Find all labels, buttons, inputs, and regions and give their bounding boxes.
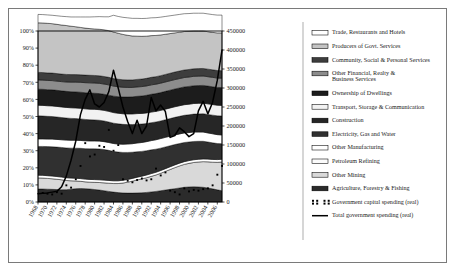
legend-label-5: Transport, Storage & Communication bbox=[332, 104, 424, 110]
capital-spending-marker-16 bbox=[117, 144, 119, 146]
capital-spending-marker-33 bbox=[198, 190, 200, 192]
ytick-label-left-2: 20% bbox=[23, 164, 34, 171]
ytick-label-right-8: 400000 bbox=[227, 46, 246, 53]
ytick-label-left-4: 40% bbox=[23, 130, 34, 137]
ytick-label-right-7: 350000 bbox=[227, 65, 246, 72]
legend-dot-marker-b-12-0 bbox=[312, 203, 314, 205]
capital-spending-marker-4 bbox=[61, 193, 63, 195]
capital-spending-marker-10 bbox=[89, 156, 91, 158]
ytick-label-right-1: 50000 bbox=[227, 179, 242, 186]
capital-spending-marker-11 bbox=[94, 154, 96, 156]
legend-swatch-2 bbox=[312, 58, 328, 63]
legend-label-1: Producers of Govt. Services bbox=[332, 43, 401, 49]
capital-spending-marker-13 bbox=[103, 146, 105, 148]
capital-spending-marker-18 bbox=[127, 180, 129, 182]
capital-spending-marker-22 bbox=[146, 179, 148, 181]
legend-label-4: Ownership of Dwellings bbox=[332, 90, 393, 96]
legend-swatch-0 bbox=[312, 30, 328, 35]
capital-spending-marker-20 bbox=[136, 179, 138, 181]
ytick-label-left-6: 60% bbox=[23, 96, 34, 103]
legend-label-6: Construction bbox=[332, 117, 363, 123]
legend-swatch-8 bbox=[312, 145, 328, 150]
xtick-label-19: 2006 bbox=[206, 204, 218, 218]
capital-spending-marker-28 bbox=[174, 191, 176, 193]
legend-swatch-5 bbox=[312, 105, 328, 110]
capital-spending-marker-32 bbox=[193, 189, 195, 191]
capital-spending-marker-35 bbox=[207, 187, 209, 189]
ytick-label-right-6: 300000 bbox=[227, 84, 246, 91]
ytick-label-left-1: 10% bbox=[23, 181, 34, 188]
legend-label-2: Community, Social & Personal Services bbox=[332, 57, 431, 63]
ytick-label-left-9: 90% bbox=[23, 44, 34, 51]
legend-label-0: Trade, Restaurants and Hotels bbox=[332, 29, 406, 35]
ytick-label-left-10: 100% bbox=[20, 27, 34, 34]
ytick-label-right-2: 100000 bbox=[227, 160, 246, 167]
chart-svg: 0%10%20%30%40%50%60%70%80%90%100%0500001… bbox=[0, 0, 457, 273]
legend-swatch-4 bbox=[312, 91, 328, 96]
ytick-label-left-5: 50% bbox=[23, 113, 34, 120]
capital-spending-marker-23 bbox=[150, 178, 152, 180]
legend-dot-marker-12-3 bbox=[328, 200, 330, 202]
legend-swatch-9 bbox=[312, 159, 328, 164]
capital-spending-marker-6 bbox=[70, 187, 72, 189]
capital-spending-marker-5 bbox=[65, 184, 67, 186]
capital-spending-marker-7 bbox=[75, 178, 77, 180]
legend-dot-marker-12-1 bbox=[316, 200, 318, 202]
capital-spending-marker-30 bbox=[183, 187, 185, 189]
capital-spending-marker-36 bbox=[212, 184, 214, 186]
legend-dot-marker-b-12-1 bbox=[316, 203, 318, 205]
ytick-label-left-3: 30% bbox=[23, 147, 34, 154]
legend-swatch-7 bbox=[312, 132, 328, 137]
legend-label-9: Petroleum Refining bbox=[332, 158, 380, 164]
capital-spending-marker-26 bbox=[164, 171, 166, 173]
ytick-label-right-5: 250000 bbox=[227, 103, 246, 110]
capital-spending-marker-24 bbox=[155, 168, 157, 170]
capital-spending-marker-27 bbox=[169, 190, 171, 192]
capital-spending-marker-31 bbox=[188, 190, 190, 192]
capital-spending-marker-34 bbox=[202, 188, 204, 190]
ytick-label-right-0: 0 bbox=[227, 198, 230, 205]
legend-dot-marker-12-0 bbox=[312, 200, 314, 202]
ytick-label-left-8: 80% bbox=[23, 61, 34, 68]
legend-swatch-11 bbox=[312, 186, 328, 191]
capital-spending-marker-38 bbox=[221, 165, 223, 167]
capital-spending-marker-15 bbox=[113, 150, 115, 152]
capital-spending-marker-19 bbox=[131, 181, 133, 183]
ytick-label-right-3: 150000 bbox=[227, 141, 246, 148]
legend-dot-marker-b-12-3 bbox=[328, 203, 330, 205]
capital-spending-marker-29 bbox=[179, 194, 181, 196]
legend-dot-marker-12-2 bbox=[324, 200, 326, 202]
capital-spending-marker-17 bbox=[122, 178, 124, 180]
legend-dot-marker-b-12-2 bbox=[324, 203, 326, 205]
chart-container: 0%10%20%30%40%50%60%70%80%90%100%0500001… bbox=[0, 0, 457, 273]
ytick-label-right-4: 200000 bbox=[227, 122, 246, 129]
capital-spending-marker-9 bbox=[84, 142, 86, 144]
legend-swatch-1 bbox=[312, 44, 328, 49]
legend-swatch-10 bbox=[312, 173, 328, 178]
ytick-label-left-7: 70% bbox=[23, 79, 34, 86]
capital-spending-marker-25 bbox=[160, 175, 162, 177]
legend-label-13: Total government spending (real) bbox=[332, 212, 413, 219]
legend-swatch-6 bbox=[312, 118, 328, 123]
capital-spending-marker-12 bbox=[98, 145, 100, 147]
capital-spending-marker-37 bbox=[216, 174, 218, 176]
capital-spending-marker-8 bbox=[80, 165, 82, 167]
ytick-label-right-9: 450000 bbox=[227, 27, 246, 34]
legend-label-11: Agriculture, Forestry & Fishing bbox=[332, 185, 410, 191]
capital-spending-marker-14 bbox=[108, 129, 110, 131]
capital-spending-marker-21 bbox=[141, 178, 143, 180]
capital-spending-marker-2 bbox=[51, 194, 53, 196]
legend-swatch-3 bbox=[312, 71, 328, 76]
legend-label-12: Government capital spending (real) bbox=[332, 199, 418, 206]
legend-label-10: Other Mining bbox=[332, 172, 365, 178]
legend-label-3: Other Financial, Realty & bbox=[332, 70, 396, 76]
legend-label-3-line2: Business Services bbox=[332, 76, 376, 82]
legend-label-7: Electricity, Gas and Water bbox=[332, 131, 396, 137]
legend-label-8: Other Manufacturing bbox=[332, 144, 384, 150]
